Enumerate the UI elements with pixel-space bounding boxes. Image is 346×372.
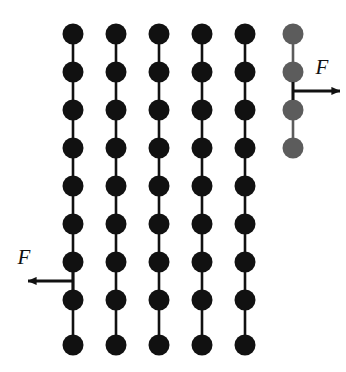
chain-bead <box>192 138 213 159</box>
polymer-chain <box>149 24 170 356</box>
chain-bead <box>106 62 127 83</box>
chain-bead <box>192 290 213 311</box>
chain-bead <box>63 100 84 121</box>
chain-bead <box>106 24 127 45</box>
chain-bead <box>149 138 170 159</box>
force-label: F <box>17 245 31 269</box>
polymer-chain <box>106 24 127 356</box>
chain-bead <box>63 176 84 197</box>
chain-bead <box>235 176 256 197</box>
chain-bead <box>106 335 127 356</box>
chain-bead <box>106 290 127 311</box>
chain-bead <box>235 24 256 45</box>
chain-bead <box>63 290 84 311</box>
chain-bead <box>106 138 127 159</box>
force-label: F <box>315 55 329 79</box>
chain-bead <box>63 24 84 45</box>
chain-bead <box>283 24 304 45</box>
polymer-chain <box>192 24 213 356</box>
chain-bead <box>192 176 213 197</box>
chain-bead <box>149 335 170 356</box>
chain-bead <box>63 62 84 83</box>
chain-bead <box>192 62 213 83</box>
chain-bead <box>192 214 213 235</box>
chain-bead <box>192 100 213 121</box>
chain-bead <box>106 100 127 121</box>
chain-bead <box>235 138 256 159</box>
chain-bead <box>235 214 256 235</box>
chain-bead <box>106 176 127 197</box>
chain-bead <box>235 335 256 356</box>
chain-bead <box>63 138 84 159</box>
chain-bead <box>235 100 256 121</box>
chain-bead <box>283 62 304 83</box>
chain-bead <box>235 290 256 311</box>
figure-canvas: FF <box>0 0 346 372</box>
chain-bead <box>63 214 84 235</box>
chain-bead <box>106 252 127 273</box>
polymer-chain <box>235 24 256 356</box>
chain-bead <box>149 176 170 197</box>
chain-bead <box>235 252 256 273</box>
chain-bead <box>283 100 304 121</box>
chain-bead <box>192 24 213 45</box>
chain-bead <box>192 335 213 356</box>
chain-bead <box>149 252 170 273</box>
chain-bead <box>149 24 170 45</box>
chain-bead <box>283 138 304 159</box>
chain-bead <box>106 214 127 235</box>
chain-bead <box>192 252 213 273</box>
chain-bead <box>149 214 170 235</box>
chain-bead <box>63 335 84 356</box>
chain-bead <box>149 290 170 311</box>
chain-bead <box>149 62 170 83</box>
chain-bead <box>149 100 170 121</box>
chain-diagram: FF <box>0 0 346 372</box>
chain-bead <box>235 62 256 83</box>
chain-bead <box>63 252 84 273</box>
polymer-chain <box>63 24 84 356</box>
